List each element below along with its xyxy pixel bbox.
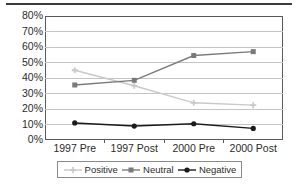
legend: PositiveNeutralNegative bbox=[57, 161, 242, 178]
chart-figure: 80%70%60%50%40%30%20%10%0% PositiveNeutr… bbox=[0, 0, 298, 187]
series-line-neutral bbox=[75, 52, 254, 85]
data-point-marker bbox=[132, 123, 137, 128]
chart-canvas bbox=[0, 0, 298, 187]
legend-label: Negative bbox=[199, 165, 237, 175]
data-point-marker bbox=[131, 83, 137, 89]
data-point-marker bbox=[70, 167, 76, 173]
data-point-marker bbox=[250, 102, 256, 108]
series-markers bbox=[72, 49, 257, 131]
data-point-marker bbox=[251, 126, 256, 131]
series-lines bbox=[75, 52, 254, 129]
data-point-marker bbox=[72, 82, 77, 87]
x-axis-tick-label: 1997 Post bbox=[105, 142, 165, 154]
legend-marker-cross-icon bbox=[63, 165, 83, 175]
series-line-negative bbox=[75, 123, 254, 128]
gridlines bbox=[45, 32, 283, 125]
x-axis-tick-label: 1997 Pre bbox=[45, 142, 105, 154]
data-point-marker bbox=[191, 121, 196, 126]
legend-label: Positive bbox=[85, 165, 118, 175]
x-axis-tick-label: 2000 Post bbox=[224, 142, 284, 154]
data-point-marker bbox=[72, 67, 78, 73]
x-axis-tick-label: 2000 Pre bbox=[164, 142, 224, 154]
data-point-marker bbox=[184, 167, 189, 172]
legend-item-neutral[interactable]: Neutral bbox=[121, 165, 174, 175]
legend-marker-circle-icon bbox=[177, 165, 197, 175]
legend-marker-square-icon bbox=[121, 165, 141, 175]
data-point-marker bbox=[132, 78, 137, 83]
legend-item-positive[interactable]: Positive bbox=[63, 165, 118, 175]
data-point-marker bbox=[129, 167, 134, 172]
legend-item-negative[interactable]: Negative bbox=[177, 165, 237, 175]
data-point-marker bbox=[191, 100, 197, 106]
series-line-positive bbox=[75, 70, 254, 105]
data-point-marker bbox=[72, 120, 77, 125]
legend-label: Neutral bbox=[143, 165, 174, 175]
data-point-marker bbox=[251, 49, 256, 54]
data-point-marker bbox=[191, 53, 196, 58]
